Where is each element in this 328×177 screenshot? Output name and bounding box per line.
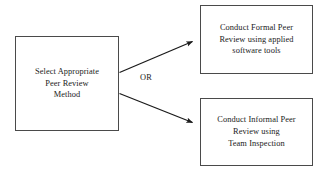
node-conduct-formal-peer-review: Conduct Formal Peer Review using applied… — [200, 5, 313, 74]
edge-label-or: OR — [133, 74, 159, 82]
arrow-select-method-to-formal-review — [120, 42, 193, 73]
node-select-appropriate-peer-review-method: Select Appropriate Peer Review Method — [15, 36, 119, 131]
arrow-select-method-to-informal-review — [120, 94, 193, 123]
peer-review-flow-diagram: Select Appropriate Peer Review Method Co… — [0, 0, 328, 177]
node-label-formal-review: Conduct Formal Peer Review using applied… — [215, 22, 297, 58]
node-conduct-informal-peer-review: Conduct Informal Peer Review using Team … — [200, 98, 313, 166]
node-label-informal-review: Conduct Informal Peer Review using Team … — [213, 114, 299, 150]
node-label-select-method: Select Appropriate Peer Review Method — [31, 66, 103, 102]
